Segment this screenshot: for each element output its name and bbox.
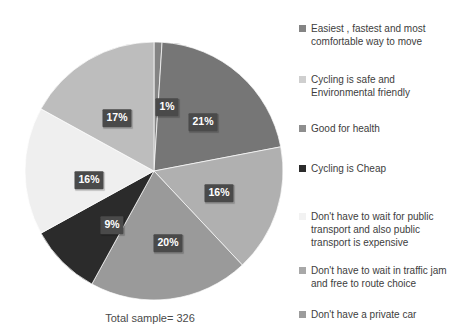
pie-chart-svg — [0, 0, 300, 312]
pie-slice-percent-label: 17% — [102, 109, 131, 127]
legend-swatch-icon — [299, 76, 306, 83]
legend-item[interactable]: Cycling is Cheap — [299, 162, 465, 175]
pie-slice-percent-label: 16% — [204, 184, 233, 202]
legend-item-label: Cycling is safe and Environmental friend… — [311, 73, 461, 99]
legend-item-label: Don't have to wait for public transport … — [311, 210, 461, 249]
legend-swatch-icon — [299, 311, 306, 318]
pie-slice-percent-label: 1% — [155, 98, 178, 116]
legend-swatch-icon — [299, 165, 306, 172]
pie-chart-figure: 1%21%16%20%9%16%17% Total sample= 326 Ea… — [0, 0, 465, 336]
legend-item-label: Cycling is Cheap — [311, 162, 461, 175]
pie-chart-plot-area: 1%21%16%20%9%16%17% — [0, 0, 300, 312]
legend-item-label: Easiest , fastest and most comfortable w… — [311, 22, 461, 48]
pie-slices-group — [25, 42, 283, 300]
legend-item[interactable]: Don't have to wait for public transport … — [299, 210, 465, 249]
legend-swatch-icon — [299, 267, 306, 274]
total-sample-caption: Total sample= 326 — [0, 312, 300, 324]
legend-item[interactable]: Don't have a private car — [299, 308, 465, 321]
pie-slice-percent-label: 16% — [74, 171, 103, 189]
legend-item-label: Don't have to wait in traffic jam and fr… — [311, 264, 461, 290]
legend-item[interactable]: Good for health — [299, 122, 465, 135]
legend-swatch-icon — [299, 213, 306, 220]
legend-item-label: Good for health — [311, 122, 461, 135]
chart-legend: Easiest , fastest and most comfortable w… — [299, 14, 465, 324]
pie-slice-percent-label: 20% — [153, 234, 182, 252]
legend-swatch-icon — [299, 125, 306, 132]
pie-slice-percent-label: 21% — [188, 113, 217, 131]
legend-swatch-icon — [299, 25, 306, 32]
legend-item[interactable]: Cycling is safe and Environmental friend… — [299, 73, 465, 99]
pie-slice-percent-label: 9% — [100, 216, 123, 234]
legend-item-label: Don't have a private car — [311, 308, 461, 321]
legend-item[interactable]: Don't have to wait in traffic jam and fr… — [299, 264, 465, 290]
legend-item[interactable]: Easiest , fastest and most comfortable w… — [299, 22, 465, 48]
